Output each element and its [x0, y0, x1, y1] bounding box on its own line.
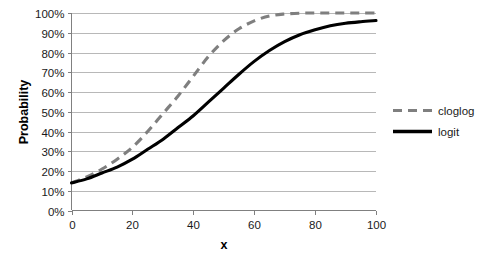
- y-tick-label: 70%: [41, 67, 64, 79]
- x-tick-label: 40: [187, 219, 200, 231]
- line-chart: 0%10%20%30%40%50%60%70%80%90%100% 020406…: [0, 0, 494, 267]
- y-tick-label: 50%: [41, 107, 64, 119]
- chart-container: 0%10%20%30%40%50%60%70%80%90%100% 020406…: [0, 0, 494, 267]
- y-tick-label: 90%: [41, 28, 64, 40]
- x-tick-label: 0: [69, 219, 75, 231]
- y-tick-label: 60%: [41, 87, 64, 99]
- x-tick-label: 20: [126, 219, 139, 231]
- x-axis-title: x: [221, 238, 228, 252]
- x-tick-label: 60: [248, 219, 261, 231]
- y-tick-label: 10%: [41, 186, 64, 198]
- y-tick-label: 30%: [41, 146, 64, 158]
- y-tick-label: 100%: [35, 8, 64, 20]
- y-tick-label: 40%: [41, 127, 64, 139]
- legend-label-cloglog: cloglog: [438, 105, 474, 117]
- x-tick-label: 100: [367, 219, 386, 231]
- x-tick-label: 80: [309, 219, 322, 231]
- y-tick-label: 0%: [48, 206, 65, 218]
- y-axis-title: Probability: [17, 80, 31, 145]
- legend-label-logit: logit: [438, 126, 460, 138]
- y-tick-label: 80%: [41, 48, 64, 60]
- y-tick-label: 20%: [41, 166, 64, 178]
